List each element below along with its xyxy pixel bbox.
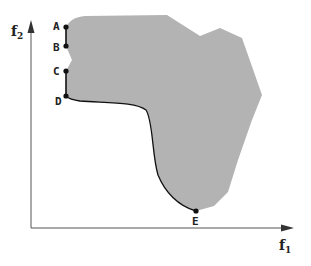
point-e xyxy=(193,208,198,213)
label-d: D xyxy=(55,95,62,108)
y-axis-arrow-icon xyxy=(28,20,35,33)
label-c: C xyxy=(53,65,60,78)
point-d xyxy=(63,93,68,98)
point-c xyxy=(63,68,68,73)
label-e: E xyxy=(192,215,199,228)
x-axis-arrow-icon xyxy=(281,225,294,232)
y-axis-label: f2 xyxy=(11,23,23,41)
pareto-diagram: f2 f1 A B C D E xyxy=(0,0,311,266)
point-a xyxy=(63,24,68,29)
feasible-region xyxy=(66,15,262,211)
label-a: A xyxy=(53,20,60,33)
x-axis-label: f1 xyxy=(279,237,291,255)
point-b xyxy=(63,43,68,48)
label-b: B xyxy=(53,41,60,54)
